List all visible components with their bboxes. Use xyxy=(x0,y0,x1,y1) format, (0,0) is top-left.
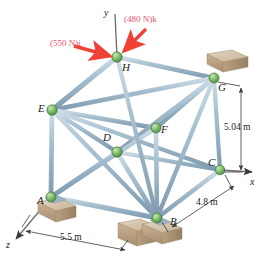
truss-members xyxy=(51,57,220,218)
joint-C xyxy=(215,165,225,175)
node-label-C: C xyxy=(208,157,215,168)
joint-H xyxy=(112,52,122,62)
axis-label-y: y xyxy=(104,8,108,18)
force-arrow-480 xyxy=(124,29,146,51)
force-label-550: (550 N)i xyxy=(50,39,81,48)
joint-D xyxy=(112,147,122,157)
node-label-A: A xyxy=(37,195,44,206)
node-label-D: D xyxy=(103,132,111,143)
joint-E xyxy=(47,105,57,115)
axis-label-x: x xyxy=(250,177,254,187)
joint-B xyxy=(152,213,162,223)
node-label-F: F xyxy=(161,124,168,135)
joint-A xyxy=(46,192,56,202)
figure-canvas: (550 N)i (480 N)k y x z H G E F D C A B … xyxy=(0,0,267,262)
joint-F xyxy=(151,123,161,133)
node-label-B: B xyxy=(170,216,177,227)
member-E-A xyxy=(51,110,52,197)
node-label-H: H xyxy=(122,62,130,73)
support-block-G xyxy=(207,50,248,72)
force-arrows xyxy=(74,29,146,56)
node-label-E: E xyxy=(38,103,45,114)
axis-y-line xyxy=(115,14,117,57)
dimension-label-width: 5.5 m xyxy=(60,233,82,243)
member-H-B xyxy=(117,57,157,218)
dim-ext-A2 xyxy=(22,215,30,227)
dimension-label-height: 5.04 m xyxy=(224,123,250,133)
member-D-C xyxy=(117,152,220,170)
member-F-B xyxy=(156,128,157,218)
axis-label-z: z xyxy=(6,240,10,250)
member-H-G xyxy=(117,57,214,78)
node-label-G: G xyxy=(218,82,226,93)
dimension-label-depth: 4.8 m xyxy=(196,198,218,208)
force-label-480: (480 N)k xyxy=(124,15,157,24)
